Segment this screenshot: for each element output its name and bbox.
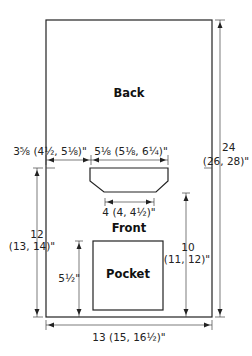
front-height-label: 12 xyxy=(30,228,43,240)
length-dim-label: 24 xyxy=(222,141,236,153)
arrow-down-icon xyxy=(218,309,223,315)
arrow-up-icon xyxy=(184,195,189,201)
arrow-left-icon xyxy=(48,158,54,163)
shoulder-width-label: 3⅝ (4½, 5⅛)" xyxy=(13,145,87,157)
arrow-down-icon xyxy=(35,309,40,315)
front-label: Front xyxy=(112,221,147,235)
arrow-down-icon xyxy=(184,309,189,315)
arrow-left-icon xyxy=(107,200,113,205)
back-label: Back xyxy=(114,86,145,100)
pocket-height-label: 5½" xyxy=(58,272,80,284)
pocket-label: Pocket xyxy=(106,267,150,281)
front-height-label-sizes: (13, 14)" xyxy=(9,240,55,252)
pocket-to-neck-label-sizes: (11, 12)" xyxy=(164,253,210,265)
neckline-shape xyxy=(90,168,168,192)
arrow-left-icon xyxy=(93,158,99,163)
arrow-left-icon xyxy=(48,323,54,328)
arrow-down-icon xyxy=(77,309,82,315)
arrow-up-icon xyxy=(218,22,223,28)
width-label: 13 (15, 16½)" xyxy=(92,331,165,343)
schematic-diagram: Back Front Pocket 24 (26, 28)" 3⅝ (4½, 5… xyxy=(0,0,252,356)
arrow-right-icon xyxy=(83,158,89,163)
arrow-up-icon xyxy=(77,243,82,249)
arrow-right-icon xyxy=(160,158,166,163)
length-dim-label-sizes: (26, 28)" xyxy=(203,155,249,167)
pocket-to-neck-label: 10 xyxy=(181,241,194,253)
neck-bottom-width-label: 4 (4, 4½)" xyxy=(102,206,155,218)
neck-width-label: 5⅛ (5⅛, 6¼)" xyxy=(94,145,168,157)
arrow-right-icon xyxy=(146,200,152,205)
arrow-up-icon xyxy=(35,170,40,176)
arrow-right-icon xyxy=(204,323,210,328)
